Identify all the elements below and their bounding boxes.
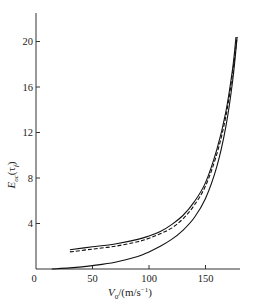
x-axis-label: V0/(m/s−1) <box>108 286 152 301</box>
y-tick-label: 8 <box>28 173 33 184</box>
chart: 05010015048121620 Eoc(τf) V0/(m/s−1) <box>0 0 253 301</box>
x-tick-label: 50 <box>87 273 98 284</box>
x-tick-label: 100 <box>141 273 157 284</box>
series-upper-solid <box>70 37 236 250</box>
series-lower-solid <box>52 37 237 269</box>
y-tick-label: 16 <box>23 82 34 93</box>
plot-area: 05010015048121620 Eoc(τf) V0/(m/s−1) <box>0 0 253 301</box>
y-tick-label: 12 <box>23 127 34 138</box>
curves <box>52 37 237 269</box>
x-tick-label: 0 <box>31 273 36 284</box>
x-tick-label: 150 <box>198 273 214 284</box>
series-dashed <box>70 37 237 252</box>
y-tick-label: 4 <box>28 218 34 229</box>
y-axis-label: Eoc(τf) <box>5 161 20 189</box>
y-tick-label: 20 <box>23 36 34 47</box>
